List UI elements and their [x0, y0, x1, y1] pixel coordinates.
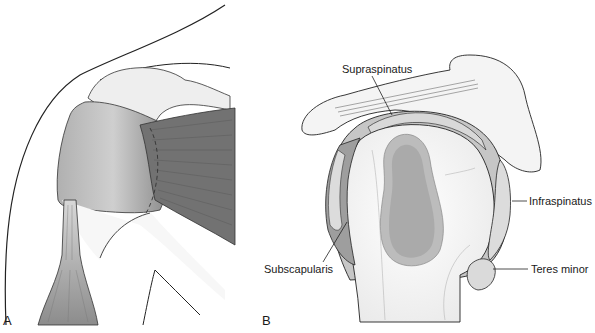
- label-teres-minor: Teres minor: [531, 264, 588, 275]
- label-infraspinatus: Infraspinatus: [529, 196, 592, 207]
- panel-b-illustration: [302, 55, 541, 322]
- panel-a-illustration: [5, 5, 235, 325]
- rotator-cuff-figure: Supraspinatus Infraspinatus Subscapulari…: [0, 0, 595, 333]
- label-subscapularis: Subscapularis: [264, 264, 333, 275]
- figure-illustration: [0, 0, 595, 333]
- panel-letter-b: B: [262, 314, 271, 327]
- panel-letter-a: A: [3, 314, 12, 327]
- label-supraspinatus: Supraspinatus: [342, 64, 412, 75]
